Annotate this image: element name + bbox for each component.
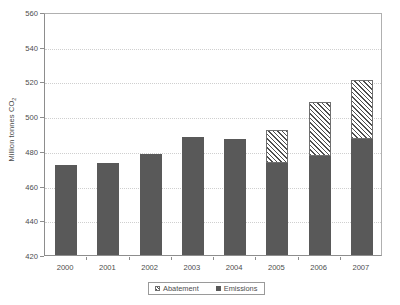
x-axis-tick-mark (298, 257, 299, 260)
legend-label-abatement: Abatement (163, 284, 199, 293)
y-axis-tick-label: 440 (25, 217, 38, 226)
bar-emissions[interactable] (309, 156, 331, 255)
y-axis-tick-label: 560 (25, 9, 38, 18)
bar-group[interactable] (140, 12, 162, 255)
chart-legend: Abatement Emissions (148, 282, 265, 295)
x-axis-tick-labels: 20002001200220032004200520062007 (44, 257, 382, 277)
x-axis-tick-mark (340, 257, 341, 260)
bar-emissions[interactable] (224, 139, 246, 255)
x-axis-tick-mark (213, 257, 214, 260)
bar-group[interactable] (224, 12, 246, 255)
bar-emissions[interactable] (266, 163, 288, 255)
plot-area (44, 13, 382, 256)
y-axis-tick-label: 420 (25, 252, 38, 261)
bar-emissions[interactable] (55, 165, 77, 255)
bar-series-layer (45, 14, 381, 255)
x-axis-tick-label: 2005 (268, 263, 285, 272)
y-axis-tick-label: 500 (25, 113, 38, 122)
bar-emissions[interactable] (97, 163, 119, 255)
x-axis-tick-mark (129, 257, 130, 260)
hatch-swatch-icon (155, 286, 160, 291)
y-axis-tick-label: 540 (25, 43, 38, 52)
bar-chart: Million tonnes CO2 420440460480500520540… (0, 0, 400, 305)
x-axis-tick-label: 2002 (141, 263, 158, 272)
bar-emissions[interactable] (351, 139, 373, 255)
bar-group[interactable] (182, 12, 204, 255)
x-axis-tick-mark (86, 257, 87, 260)
x-axis-tick-label: 2001 (99, 263, 116, 272)
x-axis-tick-mark (255, 257, 256, 260)
bar-group[interactable] (351, 12, 373, 255)
y-axis-tick-label: 460 (25, 182, 38, 191)
bar-group[interactable] (309, 12, 331, 255)
x-axis-tick-label: 2004 (226, 263, 243, 272)
x-axis-tick-label: 2003 (183, 263, 200, 272)
bar-emissions[interactable] (182, 137, 204, 255)
y-axis-tick-label: 480 (25, 147, 38, 156)
bar-group[interactable] (266, 12, 288, 255)
x-axis-tick-label: 2007 (352, 263, 369, 272)
x-axis-tick-mark (171, 257, 172, 260)
legend-item-emissions: Emissions (216, 284, 258, 293)
x-axis-tick-label: 2000 (57, 263, 74, 272)
x-axis-tick-label: 2006 (310, 263, 327, 272)
bar-abatement[interactable] (309, 102, 331, 156)
bar-group[interactable] (55, 12, 77, 255)
legend-label-emissions: Emissions (224, 284, 258, 293)
y-axis-tick-labels: 420440460480500520540560 (0, 0, 44, 305)
bar-abatement[interactable] (351, 80, 373, 139)
legend-item-abatement: Abatement (155, 284, 199, 293)
bar-group[interactable] (97, 12, 119, 255)
bar-abatement[interactable] (266, 130, 288, 163)
y-axis-tick-label: 520 (25, 78, 38, 87)
solid-swatch-icon (216, 286, 221, 291)
bar-emissions[interactable] (140, 154, 162, 255)
